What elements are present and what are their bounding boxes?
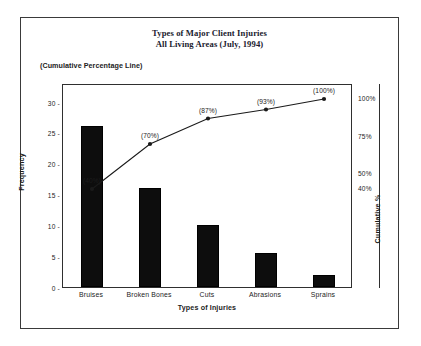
y-axis-right-ticks: 100%75%50%40% [358,84,388,288]
y-axis-right-title: Cumulative % [374,179,382,259]
cumulative-point-label: (40%) [83,177,101,184]
chart-title: Types of Major Client Injuries All Livin… [20,28,399,50]
cumulative-line-layer [63,85,353,289]
title-main: Types of Major Client Injuries [20,28,399,39]
x-category-label: Bruises [79,291,103,298]
y-tick-right: 40% [358,185,372,192]
y-tick-left: 15- [48,192,60,199]
line-marker [90,187,94,191]
y-tick-left: 30- [48,99,60,106]
line-marker [206,116,210,120]
cumulative-point-label: (70%) [141,132,159,139]
x-category-label: Cuts [200,291,215,298]
y-tick-left: 25- [48,130,60,137]
title-sub: All Living Areas (July, 1994) [20,39,399,50]
chart-screenshot: Types of Major Client Injuries All Livin… [0,0,421,346]
y-tick-left: 5- [52,254,60,261]
cumulative-point-label: (87%) [199,107,217,114]
y-tick-left: 20- [48,161,60,168]
y-tick-left: 10- [48,223,60,230]
cumulative-point-label: (93%) [257,98,275,105]
x-axis-title: Types of Injuries [62,304,352,312]
cumulative-point-label: (100%) [313,87,335,94]
line-marker [148,142,152,146]
x-category-label: Sprains [311,291,335,298]
y-tick-right: 50% [358,170,372,177]
cumulative-line-annotation: (Cumulative Percentage Line) [40,61,142,70]
x-axis-category-labels: BruisesBroken BonesCutsAbrasionsSprains [62,291,352,303]
line-marker [264,107,268,111]
x-category-label: Abrasions [249,291,281,298]
line-marker [322,97,326,101]
y-axis-left-title: Frequency [18,132,26,212]
y-tick-right: 100% [358,95,376,102]
y-tick-right: 75% [358,132,372,139]
plot-area: (40%)(70%)(87%)(93%)(100%) [62,84,352,288]
y-tick-left: 0- [52,285,60,292]
x-category-label: Broken Bones [126,291,171,298]
y-axis-left-ticks: 0-5-10-15-20-25-30- [40,84,60,288]
